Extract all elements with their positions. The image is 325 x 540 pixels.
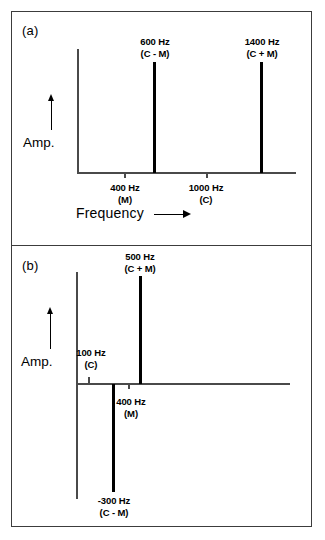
panel-a-tick-400hz	[124, 172, 126, 178]
panel-a-y-axis	[77, 49, 79, 173]
panel-b-ticklabel-100hz: 100 Hz (C)	[56, 347, 126, 370]
panel-b-spike-500hz	[139, 276, 142, 384]
panel-b-ticklabel-100hz-term: (C)	[56, 359, 126, 371]
panel-a-ticklabel-1000hz-freq: 1000 Hz	[171, 182, 241, 194]
panel-b-label-neg300hz-freq: -300 Hz	[78, 495, 150, 507]
panel-b-amp-arrow-icon	[45, 307, 55, 349]
panel-a-label-600hz-freq: 600 Hz	[119, 36, 191, 48]
panel-b-label-neg300hz-term: (C - M)	[78, 507, 150, 519]
panel-b: (b) 500 Hz (C + M) -300 Hz (C - M) 100 H…	[0, 246, 325, 527]
panel-a: (a) 600 Hz (C - M) 1400 Hz (C + M) 400 H…	[0, 11, 325, 245]
panel-b-ticklabel-400hz-term: (M)	[96, 408, 166, 420]
panel-a-frequency-label: Frequency	[76, 205, 144, 221]
panel-a-label-1400hz: 1400 Hz (C + M)	[226, 36, 298, 59]
panel-b-label-500hz: 500 Hz (C + M)	[104, 251, 176, 274]
panel-b-ticklabel-400hz-freq: 400 Hz	[96, 396, 166, 408]
figure-container: (a) 600 Hz (C - M) 1400 Hz (C + M) 400 H…	[0, 0, 325, 540]
panel-b-label-500hz-freq: 500 Hz	[104, 251, 176, 263]
panel-a-ticklabel-1000hz: 1000 Hz (C)	[171, 182, 241, 205]
panel-a-label-600hz-term: (C - M)	[119, 48, 191, 60]
panel-b-tick-100hz	[88, 377, 90, 383]
panel-b-x-axis	[76, 383, 290, 385]
panel-a-ticklabel-1000hz-term: (C)	[171, 194, 241, 206]
panel-b-tag: (b)	[22, 258, 39, 273]
panel-a-label-600hz: 600 Hz (C - M)	[119, 36, 191, 59]
panel-a-tag: (a)	[22, 23, 39, 38]
panel-a-label-1400hz-term: (C + M)	[226, 48, 298, 60]
panel-a-label-1400hz-freq: 1400 Hz	[226, 36, 298, 48]
panel-b-label-neg300hz: -300 Hz (C - M)	[78, 495, 150, 518]
panel-a-spike-600hz	[153, 62, 156, 173]
panel-b-ticklabel-100hz-freq: 100 Hz	[56, 347, 126, 359]
panel-a-spike-1400hz	[260, 62, 263, 173]
panel-b-label-500hz-term: (C + M)	[104, 263, 176, 275]
panel-a-ticklabel-400hz-term: (M)	[90, 194, 160, 206]
panel-b-ticklabel-400hz: 400 Hz (M)	[96, 396, 166, 419]
panel-a-tick-1000hz	[206, 172, 208, 178]
panel-a-amp-arrow-icon	[46, 94, 56, 130]
panel-a-ticklabel-400hz-freq: 400 Hz	[90, 182, 160, 194]
panel-b-amp-label: Amp.	[21, 354, 53, 369]
panel-b-tick-400hz	[128, 383, 130, 389]
panel-b-y-axis	[76, 272, 78, 499]
panel-a-amp-label: Amp.	[23, 135, 55, 150]
panel-a-ticklabel-400hz: 400 Hz (M)	[90, 182, 160, 205]
panel-a-frequency-arrow-icon	[154, 210, 192, 219]
